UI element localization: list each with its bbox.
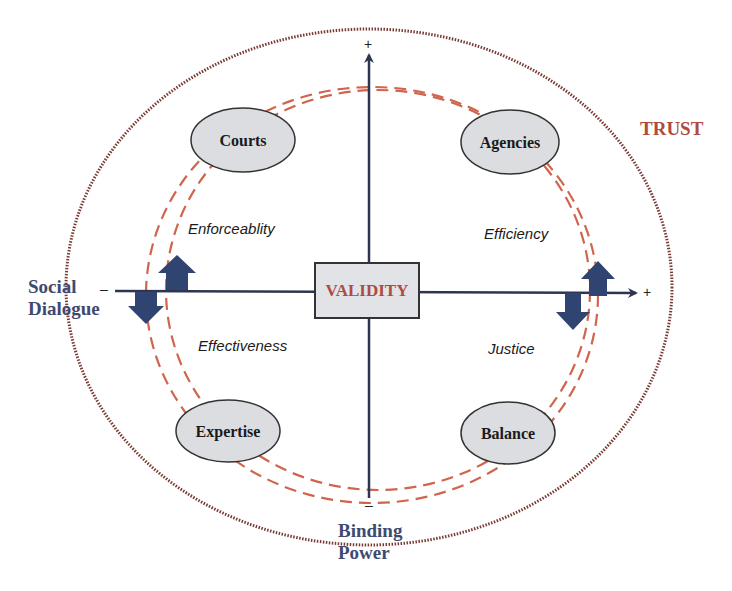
axis-label-power: Power	[338, 542, 402, 564]
horizontal-pos-sign: +	[643, 284, 651, 300]
node-balance: Balance	[461, 402, 555, 464]
node-label-balance: Balance	[481, 425, 535, 442]
quadrant-value-effectiveness: Effectiveness	[198, 337, 287, 354]
node-courts: Courts	[191, 108, 295, 172]
axis-label-dialogue: Dialogue	[28, 298, 100, 320]
node-expertise: Expertise	[176, 400, 280, 462]
node-label-expertise: Expertise	[196, 423, 261, 441]
arrow-up-right-icon	[581, 261, 615, 296]
validity-box: VALIDITY	[315, 263, 419, 318]
trust-label: TRUST	[640, 118, 703, 140]
axis-label-social: Social	[28, 276, 100, 298]
vertical-neg-sign: –	[365, 497, 373, 513]
axis-label-binding-power: Binding Power	[338, 520, 402, 564]
quadrant-value-justice: Justice	[488, 340, 535, 357]
quadrant-value-efficiency: Efficiency	[484, 225, 548, 242]
arrow-down-right-icon	[556, 293, 590, 330]
node-label-courts: Courts	[219, 132, 266, 149]
validity-label: VALIDITY	[326, 281, 409, 300]
arrow-down-left-icon	[128, 292, 164, 324]
vertical-pos-sign: +	[364, 36, 372, 52]
quadrant-value-enforceability: Enforceablity	[188, 220, 275, 237]
validity-diagram: Courts Agencies Expertise Balance VALIDI…	[0, 0, 732, 591]
axis-label-binding: Binding	[338, 520, 402, 542]
node-agencies: Agencies	[461, 110, 559, 174]
horizontal-neg-sign: –	[100, 281, 108, 297]
axis-label-social-dialogue: Social Dialogue	[28, 276, 100, 320]
arrow-up-left-icon	[158, 255, 196, 290]
node-label-agencies: Agencies	[480, 134, 540, 152]
